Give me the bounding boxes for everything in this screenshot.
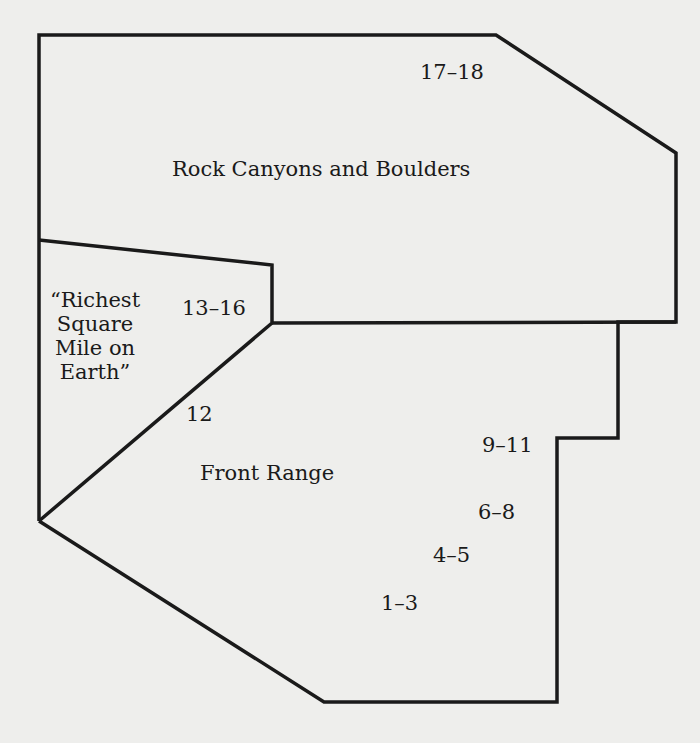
label-front-range: Front Range xyxy=(200,461,334,485)
label-chapter-12: 12 xyxy=(186,402,213,426)
label-chapters-17-18: 17–18 xyxy=(420,60,484,84)
label-chapters-1-3: 1–3 xyxy=(381,591,418,615)
label-chapters-4-5: 4–5 xyxy=(433,543,470,567)
label-chapters-6-8: 6–8 xyxy=(478,500,515,524)
rock-canyons-front-range-divider xyxy=(272,322,676,323)
label-richest-line-2: Square xyxy=(40,312,150,336)
label-richest-line-4: Earth” xyxy=(40,360,150,384)
region-map-diagram: 17–18 Rock Canyons and Boulders “Richest… xyxy=(0,0,700,743)
label-richest-line-1: “Richest xyxy=(40,288,150,312)
label-chapters-13-16: 13–16 xyxy=(182,296,246,320)
label-rock-canyons-and-boulders: Rock Canyons and Boulders xyxy=(172,157,470,181)
label-chapters-9-11: 9–11 xyxy=(482,433,533,457)
label-richest-line-3: Mile on xyxy=(40,336,150,360)
label-richest-square-mile: “Richest Square Mile on Earth” xyxy=(40,288,150,385)
